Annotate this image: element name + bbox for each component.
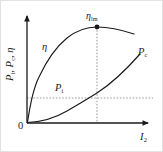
origin-label: 0 <box>18 121 23 132</box>
pi-line-label-symbol: P <box>55 82 61 93</box>
pi-line-label-subscript: i <box>62 87 64 94</box>
y-axis-label-pc-symbol: P <box>4 61 15 67</box>
eta-max-point-marker <box>95 25 100 30</box>
eta-curve-label: η <box>42 42 47 53</box>
x-axis-label: I2 <box>140 132 147 143</box>
figure-container: Pi, Pc, η η ηlm Pi Pc I2 0 <box>0 0 163 152</box>
y-axis-label-pc-subscript: c <box>9 58 16 61</box>
x-axis-label-subscript: 2 <box>144 136 147 143</box>
eta-max-label: ηlm <box>86 11 98 21</box>
pi-line-label: Pi <box>55 83 63 94</box>
eta-max-label-subscript: lm <box>91 15 98 22</box>
pc-curve-label-symbol: P <box>138 46 144 57</box>
y-axis-label-pi-subscript: i <box>9 73 16 75</box>
y-axis-label: Pi, Pc, η <box>5 31 16 97</box>
pc-curve-label: Pc <box>138 47 147 58</box>
y-axis-label-pi-symbol: P <box>4 74 15 80</box>
pc-curve-label-subscript: c <box>145 51 148 58</box>
y-axis-label-eta-symbol: η <box>4 48 15 53</box>
x-axis-label-symbol: I <box>140 131 144 142</box>
pc-curve <box>28 54 141 123</box>
eta-curve-label-text: η <box>42 41 47 52</box>
plot-canvas <box>1 1 163 152</box>
